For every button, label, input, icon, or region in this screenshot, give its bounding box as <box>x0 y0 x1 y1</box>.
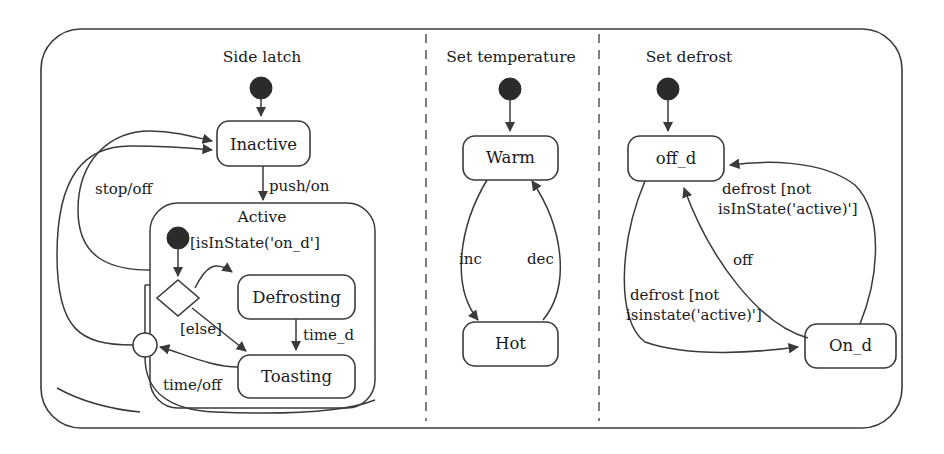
region-title-side-latch: Side latch <box>223 48 302 66</box>
state-on-d-label: On_d <box>829 336 872 355</box>
state-defrosting-label: Defrosting <box>252 288 341 307</box>
transition-label-dec: dec <box>527 250 554 268</box>
state-hot-label: Hot <box>495 334 526 353</box>
diagram-canvas: Side latch Set temperature Set defrost I… <box>0 0 944 454</box>
state-warm-label: Warm <box>486 148 535 167</box>
uml-state-machine-diagram: Side latch Set temperature Set defrost I… <box>0 0 944 454</box>
transition-label-off: off <box>733 251 754 269</box>
active-bottom-left-exit <box>57 388 140 412</box>
state-toasting-label: Toasting <box>261 367 332 386</box>
transition-label-ond-offd-line1: defrost [not <box>722 180 811 198</box>
outer-statemachine-frame <box>41 29 902 428</box>
transition-label-else: [else] <box>180 320 222 338</box>
transition-label-offd-ond-line2: isinstate('active)'] <box>626 306 762 324</box>
transition-label-time-off: time/off <box>163 376 223 394</box>
initial-node-set-defrost <box>657 78 679 100</box>
state-off-d-label: off_d <box>656 149 697 168</box>
transition-label-stop-off: stop/off <box>95 180 153 198</box>
transition-label-time-d: time_d <box>303 326 354 344</box>
transition-label-offd-ond-line1: defrost [not <box>630 286 719 304</box>
region-title-set-defrost: Set defrost <box>646 48 733 66</box>
choice-pseudostate-active[interactable] <box>157 280 199 316</box>
junction-pseudostate-active[interactable] <box>133 333 157 357</box>
state-active-label: Active <box>237 208 287 226</box>
initial-node-active <box>167 227 189 249</box>
transition-choice-to-defrosting <box>195 266 232 288</box>
initial-node-set-temperature <box>499 78 521 100</box>
transition-label-isinstate-ond: [isInState('on_d'] <box>190 234 320 252</box>
transition-label-push-on: push/on <box>269 177 330 195</box>
region-title-set-temperature: Set temperature <box>446 48 576 66</box>
transition-label-inc: inc <box>459 250 482 268</box>
initial-node-side-latch <box>250 77 272 99</box>
transition-toasting-to-merge <box>160 347 238 367</box>
state-inactive-label: Inactive <box>230 135 297 154</box>
transition-merge-to-inactive <box>57 146 212 345</box>
transition-label-ond-offd-line2: isInState('active)'] <box>718 200 858 218</box>
